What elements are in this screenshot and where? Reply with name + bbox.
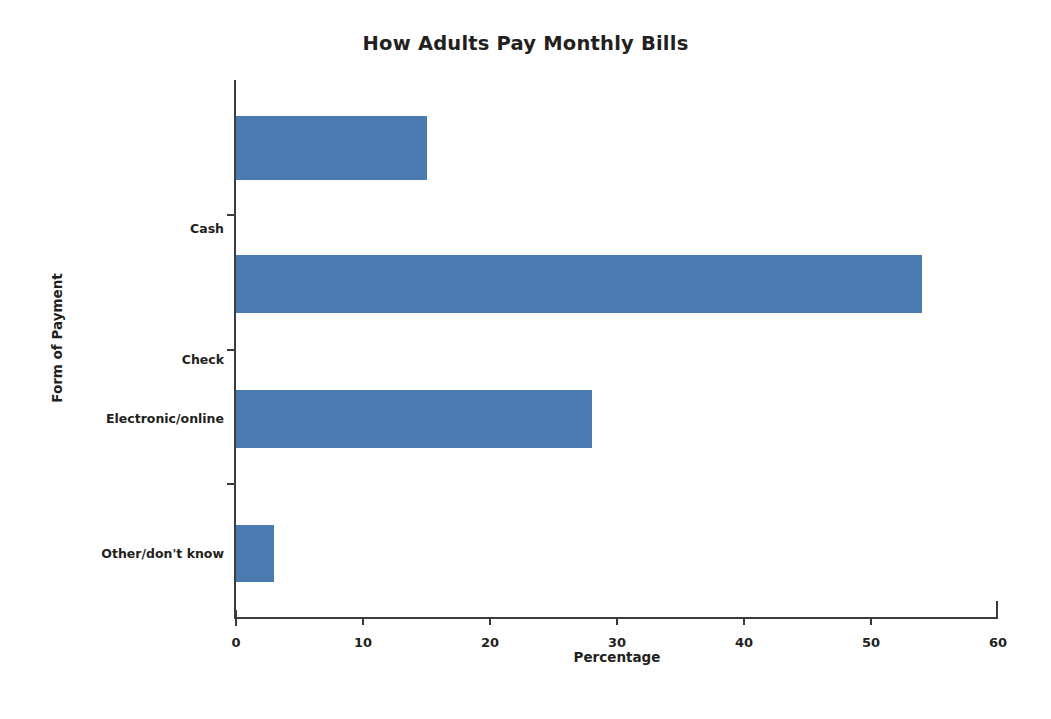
y-axis-tick: [227, 349, 235, 351]
x-tick-label-20: 20: [470, 635, 510, 650]
y-axis-tick: [227, 483, 235, 485]
x-axis-tick: [743, 617, 745, 625]
x-axis-tick: [235, 610, 237, 626]
bar-check: [236, 255, 922, 313]
x-tick-label-60: 60: [978, 635, 1018, 650]
x-axis-tick: [489, 617, 491, 625]
y-axis-tick: [227, 214, 235, 216]
chart-title: How Adults Pay Monthly Bills: [0, 32, 1051, 55]
x-tick-label-50: 50: [851, 635, 891, 650]
x-tick-label-30: 30: [597, 635, 637, 650]
x-axis-title: Percentage: [236, 649, 998, 665]
category-label-other-dont-know: Other/don't know: [4, 546, 224, 561]
x-axis-tick: [870, 617, 872, 625]
category-label-electronic-online: Electronic/online: [4, 411, 224, 426]
bar-cash: [236, 116, 427, 180]
x-axis-tick: [996, 601, 998, 619]
x-tick-label-10: 10: [343, 635, 383, 650]
x-tick-label-0: 0: [216, 635, 256, 650]
y-axis-title: Form of Payment: [49, 248, 65, 428]
category-label-check: Check: [4, 352, 224, 367]
bar-electronic-online: [236, 390, 592, 448]
category-label-cash: Cash: [4, 221, 224, 236]
bar-chart: How Adults Pay Monthly Bills Cash Check …: [0, 0, 1051, 719]
x-axis-tick: [362, 617, 364, 625]
x-tick-label-40: 40: [724, 635, 764, 650]
x-axis-tick: [616, 617, 618, 625]
bar-other-dont-know: [236, 525, 274, 582]
plot-area: Cash Check Electronic/online Other/don't…: [236, 80, 998, 617]
